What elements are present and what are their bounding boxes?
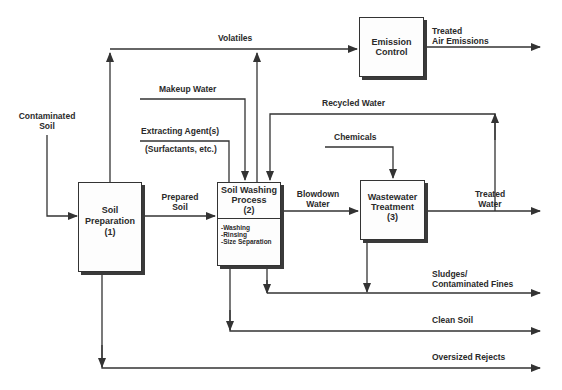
- prepared-soil-label: Prepared Soil: [150, 193, 210, 212]
- blowdown-water-label: Blowdown Water: [288, 190, 348, 209]
- contaminated-soil-line2: Soil: [15, 122, 79, 132]
- sludges-label: Sludges/ Contaminated Fines: [432, 270, 513, 289]
- volatiles-label: Volatiles: [218, 34, 252, 44]
- soil-preparation-box: Soil Preparation (1): [78, 182, 142, 272]
- soil-washing-box: Soil Washing Process (2) -Washing -Rinsi…: [217, 182, 281, 266]
- wastewater-treatment-box: Wastewater Treatment (3): [360, 180, 425, 240]
- contaminated-soil-label: Contaminated Soil: [15, 112, 79, 131]
- emission-control-box: Emission Control: [359, 17, 424, 77]
- soil-washing-line2: Process: [218, 195, 280, 206]
- soil-preparation-line3: (1): [79, 227, 141, 238]
- surfactants-label: (Surfactants, etc.): [145, 145, 217, 155]
- emission-control-line1: Emission: [360, 37, 423, 48]
- sludges-line2: Contaminated Fines: [432, 280, 513, 290]
- emission-control-line2: Control: [360, 47, 423, 58]
- makeup-water-label: Makeup Water: [159, 85, 216, 95]
- soil-washing-divider: [218, 218, 280, 219]
- soil-washing-line1: Soil Washing: [218, 185, 280, 196]
- chemicals-label: Chemicals: [334, 133, 377, 143]
- treated-water-line2: Water: [460, 200, 520, 210]
- oversized-rejects-label: Oversized Rejects: [432, 353, 505, 363]
- extracting-agent-label: Extracting Agent(s): [141, 127, 219, 137]
- soil-preparation-line2: Preparation: [79, 216, 141, 227]
- prepared-soil-line2: Soil: [150, 203, 210, 213]
- treated-air-label: Treated Air Emissions: [432, 27, 489, 46]
- contaminated-soil-arrow: [47, 135, 77, 216]
- treated-air-line2: Air Emissions: [432, 37, 489, 47]
- soil-washing-step: -Size Separation: [221, 238, 272, 246]
- recycled-water-label: Recycled Water: [322, 99, 385, 109]
- clean-soil-label: Clean Soil: [432, 316, 473, 326]
- blowdown-water-line2: Water: [288, 200, 348, 210]
- soil-washing-line3: (2): [218, 205, 280, 216]
- soil-washing-flow-diagram: Soil Preparation (1) Soil Washing Proces…: [0, 0, 562, 390]
- soil-preparation-line1: Soil: [79, 205, 141, 216]
- wastewater-line3: (3): [361, 212, 424, 223]
- chemicals-arrow: [325, 147, 393, 178]
- wastewater-line1: Wastewater: [361, 192, 424, 203]
- wastewater-line2: Treatment: [361, 202, 424, 213]
- treated-water-label: Treated Water: [460, 190, 520, 209]
